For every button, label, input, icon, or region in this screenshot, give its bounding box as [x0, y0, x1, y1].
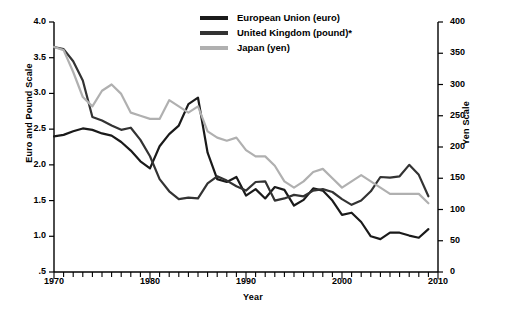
y-tick-label-left: 3.0	[16, 87, 46, 97]
y-tick-label-right: 50	[450, 235, 480, 245]
y-tick-label-right: 0	[450, 266, 480, 276]
x-tick-label: 1980	[130, 276, 170, 286]
y-tick-label-left: .5	[16, 266, 46, 276]
y-tick-label-right: 100	[450, 204, 480, 214]
plot-area	[0, 0, 506, 314]
y-tick-label-right: 150	[450, 172, 480, 182]
y-tick-label-right: 400	[450, 16, 480, 26]
x-tick-label: 2000	[322, 276, 362, 286]
y-tick-label-left: 1.5	[16, 195, 46, 205]
y-tick-label-right: 200	[450, 141, 480, 151]
y-tick-label-right: 250	[450, 110, 480, 120]
x-tick-label: 2010	[418, 276, 458, 286]
y-tick-label-right: 300	[450, 79, 480, 89]
y-tick-label-right: 350	[450, 47, 480, 57]
x-tick-label: 1990	[226, 276, 266, 286]
currency-exchange-rate-chart: Euro and Pound Scale Yen Scale Year Euro…	[0, 0, 506, 314]
y-tick-label-left: 3.5	[16, 52, 46, 62]
x-tick-label: 1970	[34, 276, 74, 286]
y-tick-label-left: 2.5	[16, 123, 46, 133]
y-tick-label-left: 2.0	[16, 159, 46, 169]
y-tick-label-left: 4.0	[16, 16, 46, 26]
series-line-0	[54, 98, 428, 239]
y-tick-label-left: 1.0	[16, 230, 46, 240]
